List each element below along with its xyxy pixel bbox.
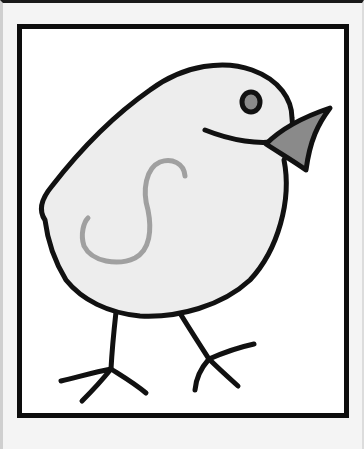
bird-illustration xyxy=(0,0,364,449)
bird-eye xyxy=(242,92,260,112)
